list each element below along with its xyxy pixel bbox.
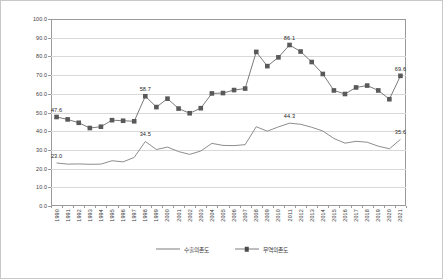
x-tick-mark xyxy=(273,206,274,208)
x-tick-mark xyxy=(62,206,63,208)
x-tick-label: 2016 xyxy=(342,209,348,222)
x-tick-label: 2019 xyxy=(375,209,381,222)
y-tick-label: 50.0 xyxy=(36,110,47,116)
x-tick-label: 2012 xyxy=(298,209,304,222)
x-tick-mark xyxy=(129,206,130,208)
x-tick-mark xyxy=(217,206,218,208)
series-marker xyxy=(54,115,59,120)
x-tick-label: 1997 xyxy=(131,209,137,222)
x-tick-label: 1998 xyxy=(142,209,148,222)
series-layer xyxy=(51,19,406,206)
y-tick-label: 0.0 xyxy=(39,203,47,209)
x-tick-label: 2009 xyxy=(264,209,270,222)
x-tick-label: 2017 xyxy=(353,209,359,222)
x-tick-mark xyxy=(73,206,74,208)
series-marker xyxy=(265,64,270,69)
x-tick-label: 1999 xyxy=(153,209,159,222)
data-label: 34.5 xyxy=(140,131,151,137)
series-marker xyxy=(343,92,348,97)
x-tick-mark xyxy=(339,206,340,208)
series-marker xyxy=(143,94,148,99)
series-marker xyxy=(110,118,115,123)
legend-item[interactable]: 수출의존도 xyxy=(156,245,209,254)
series-marker xyxy=(376,88,381,93)
x-tick-mark xyxy=(173,206,174,208)
legend-label: 무역의존도 xyxy=(263,245,288,254)
series-marker xyxy=(154,105,159,110)
series-marker xyxy=(232,88,237,93)
data-label: 44.3 xyxy=(284,113,295,119)
x-tick-label: 2018 xyxy=(364,209,370,222)
x-tick-label: 2000 xyxy=(164,209,170,222)
x-tick-mark xyxy=(295,206,296,208)
x-tick-mark xyxy=(229,206,230,208)
x-tick-mark xyxy=(406,206,407,208)
series-marker xyxy=(187,111,192,116)
series-marker xyxy=(287,43,292,48)
series-marker xyxy=(165,96,170,101)
x-tick-mark xyxy=(195,206,196,208)
y-tick-label: 60.0 xyxy=(36,91,47,97)
x-tick-mark xyxy=(184,206,185,208)
series-marker xyxy=(121,118,126,123)
x-tick-mark xyxy=(240,206,241,208)
chart-legend: 수출의존도무역의존도 xyxy=(1,241,442,257)
x-tick-label: 1995 xyxy=(109,209,115,222)
y-tick-label: 20.0 xyxy=(36,166,47,172)
x-tick-label: 2005 xyxy=(220,209,226,222)
x-tick-mark xyxy=(351,206,352,208)
data-label: 47.6 xyxy=(51,107,62,113)
series-marker xyxy=(332,88,337,93)
data-label: 23.0 xyxy=(51,153,62,159)
y-tick-label: 70.0 xyxy=(36,72,47,78)
x-tick-mark xyxy=(373,206,374,208)
x-tick-mark xyxy=(251,206,252,208)
x-tick-label: 1991 xyxy=(65,209,71,222)
x-tick-mark xyxy=(395,206,396,208)
series-marker xyxy=(221,91,226,96)
x-tick-label: 2003 xyxy=(198,209,204,222)
y-tick-label: 10.0 xyxy=(36,184,47,190)
x-tick-label: 1996 xyxy=(120,209,126,222)
x-tick-mark xyxy=(84,206,85,208)
x-tick-mark xyxy=(151,206,152,208)
x-tick-label: 2008 xyxy=(253,209,259,222)
x-tick-mark xyxy=(317,206,318,208)
x-tick-mark xyxy=(140,206,141,208)
series-marker xyxy=(365,83,370,88)
x-tick-mark xyxy=(362,206,363,208)
series-marker xyxy=(210,91,215,96)
series-marker xyxy=(387,97,392,102)
x-tick-mark xyxy=(118,206,119,208)
x-tick-mark xyxy=(262,206,263,208)
legend-line-icon xyxy=(156,245,180,253)
series-marker xyxy=(176,106,181,111)
x-tick-label: 1994 xyxy=(98,209,104,222)
x-tick-mark xyxy=(328,206,329,208)
x-tick-mark xyxy=(95,206,96,208)
y-tick-label: 90.0 xyxy=(36,35,47,41)
x-tick-label: 2020 xyxy=(386,209,392,222)
series-marker xyxy=(99,124,104,129)
y-tick-label: 80.0 xyxy=(36,53,47,59)
series-line xyxy=(57,123,401,164)
x-tick-label: 2021 xyxy=(397,209,403,222)
data-label: 35.6 xyxy=(395,129,406,135)
series-line xyxy=(57,45,401,128)
series-marker xyxy=(298,49,303,54)
y-tick-label: 30.0 xyxy=(36,147,47,153)
data-label: 86.1 xyxy=(284,35,295,41)
x-tick-label: 2006 xyxy=(231,209,237,222)
series-marker xyxy=(243,86,248,91)
series-marker xyxy=(132,119,137,124)
x-tick-label: 1992 xyxy=(76,209,82,222)
data-label: 69.6 xyxy=(395,66,406,72)
x-tick-label: 2014 xyxy=(320,209,326,222)
legend-item[interactable]: 무역의존도 xyxy=(235,245,288,254)
series-marker xyxy=(398,74,403,79)
x-tick-mark xyxy=(106,206,107,208)
x-tick-mark xyxy=(206,206,207,208)
x-tick-label: 2015 xyxy=(331,209,337,222)
x-tick-mark xyxy=(306,206,307,208)
x-tick-label: 2011 xyxy=(287,209,293,221)
